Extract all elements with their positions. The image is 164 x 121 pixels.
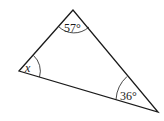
triangle	[19, 10, 158, 112]
angle-label-top: 57°	[64, 21, 81, 35]
angle-label-left: x	[24, 61, 31, 75]
angle-arc-left	[34, 56, 41, 78]
triangle-diagram: 57° x 36°	[0, 0, 164, 121]
angle-label-right: 36°	[120, 89, 137, 103]
